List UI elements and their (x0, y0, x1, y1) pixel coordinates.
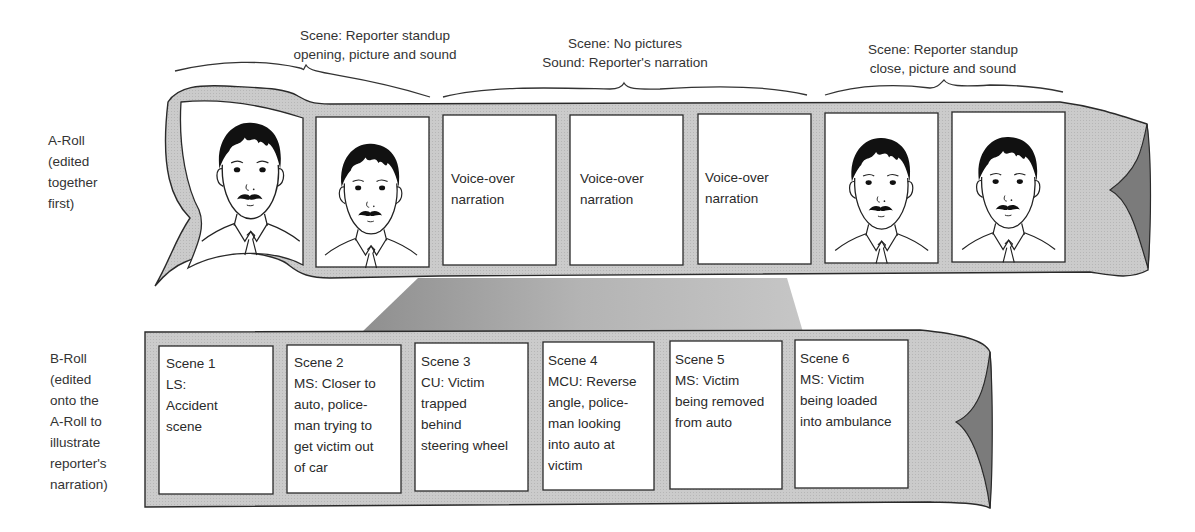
caption-opening: Scene: Reporter standup opening, picture… (265, 26, 485, 64)
b-roll-scene-2: Scene 2 MS: Closer to auto, police- man … (294, 352, 376, 478)
a-to-b-roll-connector (362, 278, 803, 332)
a-roll-tape (155, 86, 1151, 286)
b-roll-scene-1: Scene 1 LS: Accident scene (166, 353, 218, 437)
a-roll-frame-3-text: Voice-over narration (451, 168, 515, 210)
b-roll-scene-5: Scene 5 MS: Victim being removed from au… (675, 349, 764, 433)
a-roll-frame-2 (316, 117, 429, 267)
caption-close: Scene: Reporter standup close, picture a… (833, 40, 1053, 78)
caption-middle: Scene: No pictures Sound: Reporter's nar… (515, 34, 735, 72)
a-roll-frame-5-text: Voice-over narration (705, 167, 769, 209)
brace-middle (443, 83, 807, 97)
a-roll-label: A-Roll (edited together first) (48, 130, 98, 214)
b-roll-scene-4: Scene 4 MCU: Reverse angle, police- man … (548, 350, 637, 476)
a-roll-frame-4-text: Voice-over narration (580, 168, 644, 210)
b-roll-scene-3: Scene 3 CU: Victim trapped behind steeri… (421, 351, 508, 456)
b-roll-label: B-Roll (edited onto the A-Roll to illust… (50, 348, 108, 495)
b-roll-scene-6: Scene 6 MS: Victim being loaded into amb… (800, 348, 892, 432)
brace-close (825, 80, 1063, 95)
